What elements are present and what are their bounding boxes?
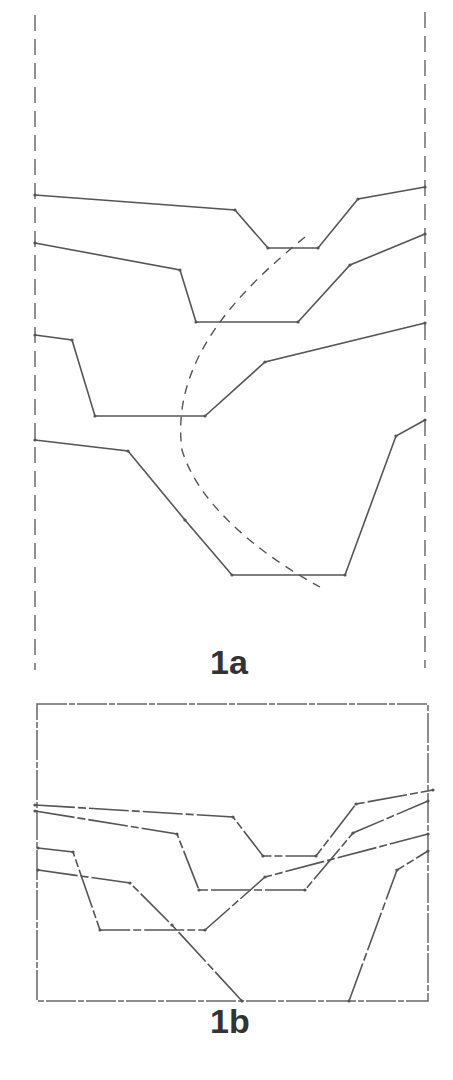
vertex-marker: [183, 518, 186, 521]
vertex-marker: [356, 197, 359, 200]
profile-2: [35, 801, 428, 890]
vertex-marker: [233, 208, 236, 211]
vertex-marker: [395, 868, 398, 871]
patent-drawing: [0, 0, 453, 1080]
vertex-marker: [343, 573, 346, 576]
vertex-marker: [316, 246, 319, 249]
profile-1: [35, 790, 433, 856]
vertex-marker: [230, 573, 233, 576]
vertex-marker: [426, 849, 429, 852]
vertex-marker: [261, 854, 264, 857]
vertex-marker: [314, 854, 317, 857]
vertex-marker: [93, 414, 96, 417]
vertex-marker: [423, 418, 426, 421]
vertex-marker: [178, 268, 181, 271]
vertex-marker: [128, 881, 131, 884]
vertex-marker: [348, 263, 351, 266]
vertex-marker: [170, 923, 173, 926]
vertex-marker: [175, 832, 178, 835]
vertex-marker: [36, 846, 39, 849]
vertex-marker: [70, 338, 73, 341]
vertex-marker: [203, 414, 206, 417]
vertex-marker: [263, 875, 266, 878]
vertex-marker: [423, 232, 426, 235]
vertex-marker: [426, 832, 429, 835]
profile-4: [35, 420, 425, 575]
figure-label-1a: 1a: [210, 643, 248, 682]
vertex-marker: [296, 320, 299, 323]
vertex-marker: [194, 320, 197, 323]
vertex-marker: [394, 434, 397, 437]
vertex-marker: [354, 802, 357, 805]
vertex-marker: [36, 868, 39, 871]
vertex-marker: [197, 888, 200, 891]
vertex-marker: [33, 803, 36, 806]
vertex-marker: [266, 246, 269, 249]
profile-3: [38, 834, 428, 930]
vertex-marker: [423, 185, 426, 188]
figure-1a: [33, 12, 426, 670]
trajectory-dashed-curve: [181, 237, 320, 587]
profile-1: [35, 187, 425, 248]
vertex-marker: [303, 888, 306, 891]
vertex-marker: [347, 999, 350, 1002]
vertex-marker: [351, 831, 354, 834]
figure-1b-frame: [37, 704, 428, 1001]
vertex-marker: [98, 928, 101, 931]
vertex-marker: [126, 449, 129, 452]
profile-3: [35, 323, 425, 416]
vertex-marker: [33, 333, 36, 336]
vertex-marker: [426, 799, 429, 802]
vertex-marker: [231, 815, 234, 818]
vertex-marker: [431, 788, 434, 791]
vertex-marker: [33, 809, 36, 812]
profile-4-right: [349, 851, 428, 1001]
figure-label-1b: 1b: [210, 1002, 250, 1041]
vertex-marker: [203, 928, 206, 931]
vertex-marker: [423, 321, 426, 324]
vertex-marker: [71, 850, 74, 853]
vertex-marker: [33, 241, 36, 244]
figure-1b: [33, 704, 434, 1003]
vertex-marker: [33, 193, 36, 196]
vertex-marker: [33, 438, 36, 441]
vertex-marker: [263, 360, 266, 363]
